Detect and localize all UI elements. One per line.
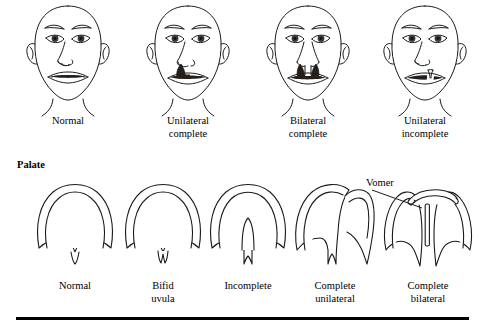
lip-cell-bilateral-complete: Bilateral complete [248,0,368,148]
lip-caption-unilateral-complete: Unilateral complete [128,115,248,140]
palate-caption-normal: Normal [25,280,125,293]
palate-caption-line2: unilateral [285,293,385,306]
palate-caption-line2: bilateral [378,293,478,306]
palate-caption-line1: Complete [285,280,385,293]
lip-caption-line2: complete [248,128,368,141]
bottom-divider-rule [16,317,469,320]
lip-caption-line1: Bilateral [248,115,368,128]
palate-cell-normal: Normal [25,176,125,306]
lip-caption-line2: complete [128,128,248,141]
lip-cell-unilateral-incomplete: Unilateral incomplete [365,0,485,148]
lip-cell-normal: Normal [8,0,128,148]
cleft-classification-figure: Normal [0,0,485,329]
palate-diagram-complete-unilateral [285,176,385,288]
palate-diagram-incomplete [198,176,298,288]
palate-caption-incomplete: Incomplete [198,280,298,293]
palate-caption-line1: Incomplete [198,280,298,293]
lip-caption-normal: Normal [8,115,128,128]
palate-cell-complete-bilateral: Complete bilateral [378,176,478,306]
palate-section-heading: Palate [17,159,45,170]
lip-cell-unilateral-complete: Unilateral complete [128,0,248,148]
palate-caption-line1: Complete [378,280,478,293]
vomer-annotation-label: Vomer [366,177,394,189]
lip-row: Normal [0,0,485,148]
face-diagram-bilateral-complete [248,0,368,118]
palate-diagram-normal [25,176,125,288]
lip-caption-line2: incomplete [365,128,485,141]
lip-caption-line1: Normal [8,115,128,128]
palate-caption-line1: Normal [25,280,125,293]
face-diagram-normal [8,0,128,118]
palate-row: Normal Bifid uvula [0,176,485,306]
face-diagram-unilateral-incomplete [365,0,485,118]
palate-caption-complete-unilateral: Complete unilateral [285,280,385,305]
lip-caption-line1: Unilateral [128,115,248,128]
palate-caption-complete-bilateral: Complete bilateral [378,280,478,305]
lip-caption-bilateral-complete: Bilateral complete [248,115,368,140]
palate-diagram-complete-bilateral [378,176,478,288]
palate-cell-complete-unilateral: Complete unilateral [285,176,385,306]
lip-caption-unilateral-incomplete: Unilateral incomplete [365,115,485,140]
palate-cell-incomplete: Incomplete [198,176,298,306]
lip-caption-line1: Unilateral [365,115,485,128]
face-diagram-unilateral-complete [128,0,248,118]
